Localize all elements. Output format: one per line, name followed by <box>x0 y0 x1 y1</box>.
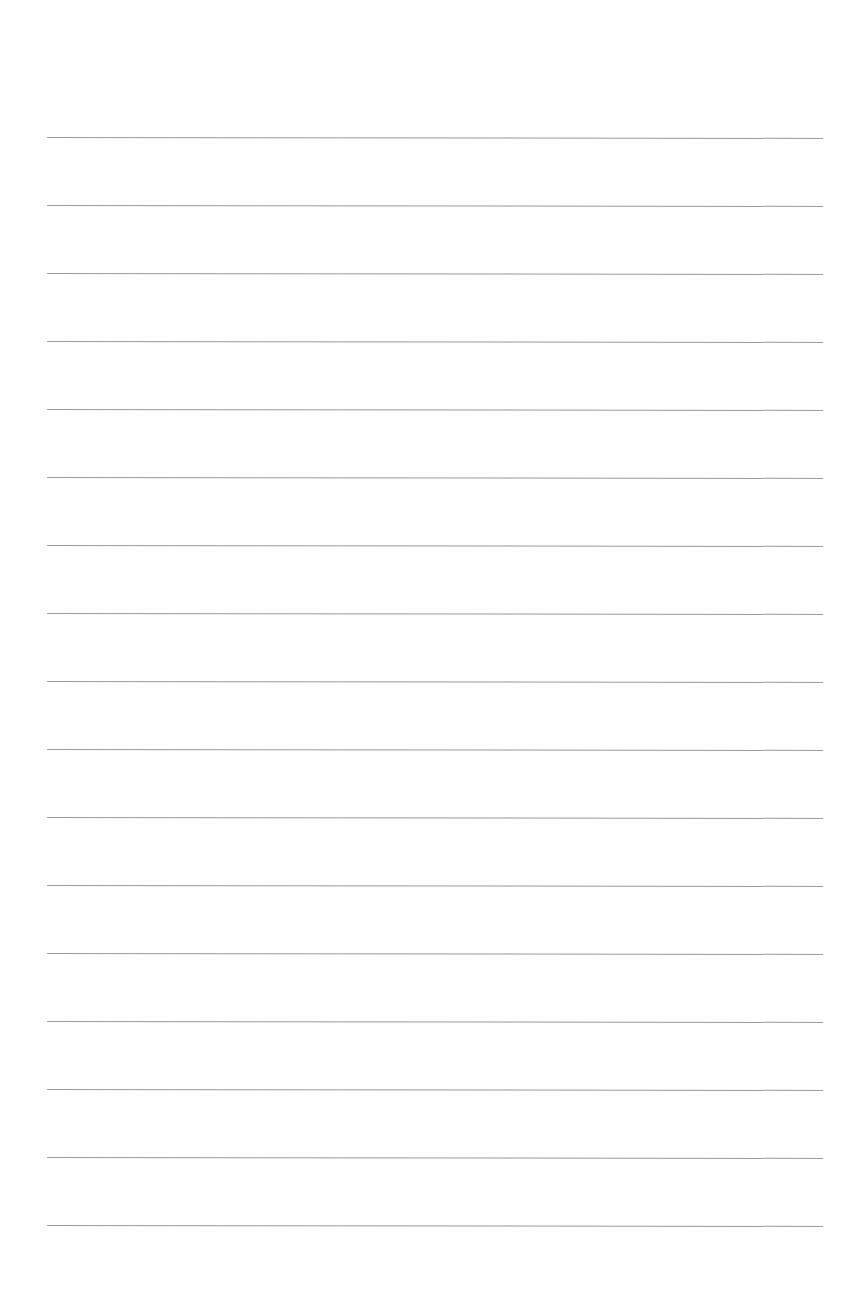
ruled-line <box>47 409 823 412</box>
ruled-line <box>47 1157 823 1160</box>
ruled-line <box>47 341 823 344</box>
ruled-line <box>47 205 823 208</box>
ruled-line <box>47 1225 823 1228</box>
ruled-line <box>47 681 823 684</box>
ruled-line <box>47 885 823 888</box>
ruled-line <box>47 273 823 276</box>
ruled-line <box>47 1021 823 1024</box>
ruled-line <box>47 545 823 548</box>
ruled-line <box>47 477 823 480</box>
lined-paper-page <box>0 0 866 1290</box>
ruled-line <box>47 137 823 140</box>
ruled-line <box>47 613 823 616</box>
ruled-line <box>47 1089 823 1092</box>
ruled-line <box>47 817 823 820</box>
ruled-line <box>47 953 823 956</box>
ruled-line <box>47 749 823 752</box>
